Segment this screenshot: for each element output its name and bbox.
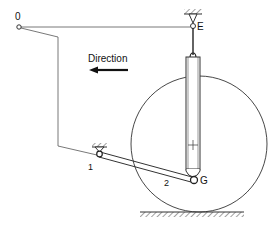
label-point-g: G	[200, 175, 208, 186]
direction-label: Direction	[88, 53, 127, 64]
pivot-e	[191, 24, 196, 29]
control-cable	[21, 27, 190, 155]
label-point-e: E	[197, 21, 204, 32]
ground	[140, 212, 244, 217]
link-2	[99, 152, 192, 182]
pin-g	[191, 177, 198, 184]
label-pin-1: 1	[88, 162, 93, 172]
ground-hatch-1	[92, 143, 107, 147]
ground-hatch-e	[184, 9, 202, 14]
pin-1	[97, 151, 103, 157]
point-o-pivot	[17, 25, 21, 29]
lower-cable-line	[21, 28, 97, 155]
mechanism-diagram: 0 E 2 G 1 Direction	[0, 0, 269, 228]
ground-hatch	[140, 212, 244, 217]
label-point-o: 0	[15, 11, 21, 22]
label-link-2: 2	[164, 178, 169, 188]
direction-arrow-icon	[89, 67, 128, 74]
